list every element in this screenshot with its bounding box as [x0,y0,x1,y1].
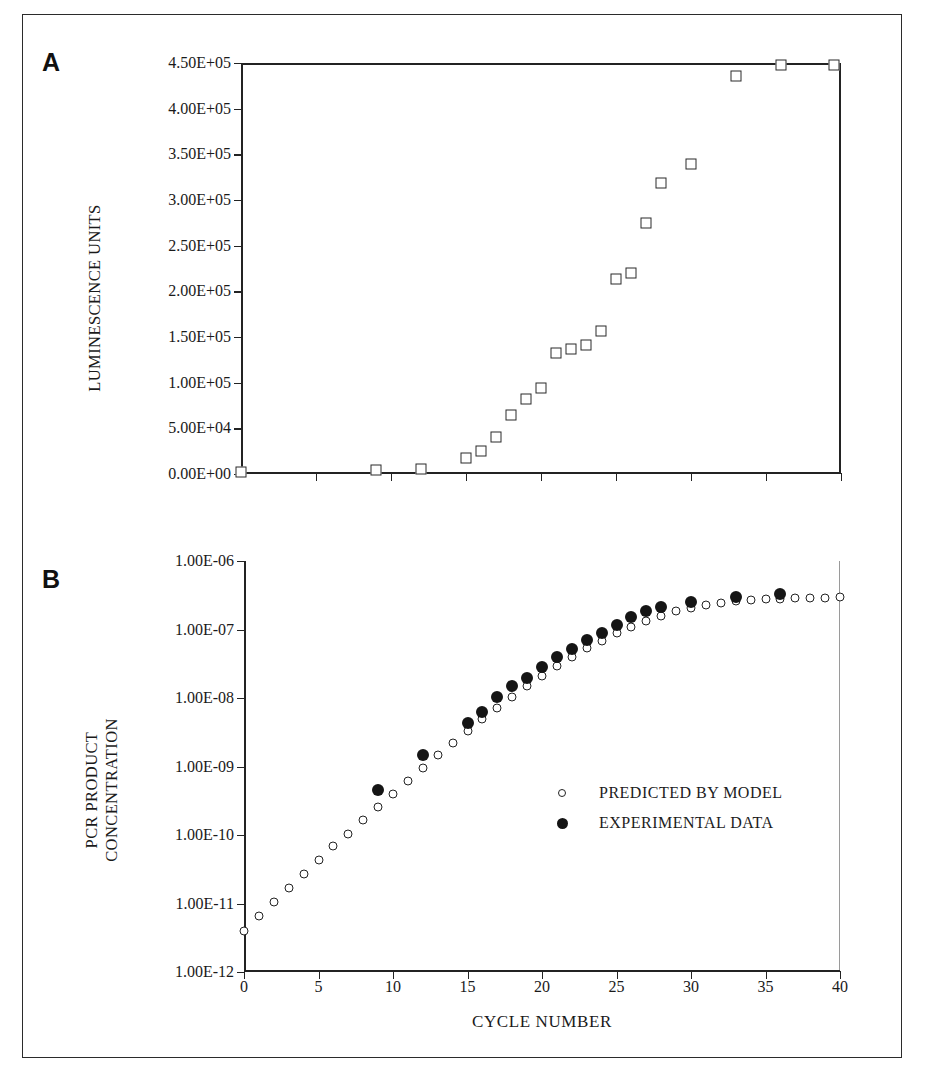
panel-a-point-11 [581,340,592,351]
panel-a-ytick-6-mark [234,200,242,201]
panel-b-ytick-4-label: 1.00E-08 [175,689,234,707]
panel-a-point-0 [236,467,247,478]
panel-a-ytick-5-label: 2.50E+05 [168,237,231,255]
panel-a-point-19 [776,59,787,70]
panel-a-point-18 [731,70,742,81]
legend-label-experimental: EXPERIMENTAL DATA [599,814,774,832]
panel-b-y-axis-title-line2: CONCENTRATION [102,660,122,920]
panel-b-predicted-point-17 [493,703,502,712]
panel-b-ytick-6-label: 1.00E-06 [175,552,234,570]
panel-b-predicted-point-3 [284,883,293,892]
panel-a-y-axis [241,63,243,474]
panel-b-predicted-point-12 [418,764,427,773]
panel-a-ytick-7-mark [234,154,242,155]
panel-b-xtick-4-label: 20 [534,978,550,996]
panel-a-ytick-9-mark [234,63,242,64]
panel-a-ytick-8-mark [234,109,242,110]
panel-b-xtick-1-label: 5 [315,978,323,996]
panel-a-xtick-8-mark [841,473,842,481]
panel-b-predicted-point-40 [836,593,845,602]
panel-b-ytick-2-label: 1.00E-10 [175,826,234,844]
panel-a-ytick-0-label: 0.00E+00 [168,465,231,483]
panel-a-xtick-7-mark [766,473,767,481]
panel-b-predicted-point-1 [254,912,263,921]
panel-a-xtick-1-mark [316,473,317,481]
panel-b-experimental-point-10 [581,634,593,646]
panel-a-xtick-2-mark [391,473,392,481]
panel-b-ytick-3-label: 1.00E-09 [175,758,234,776]
panel-b-predicted-point-38 [806,593,815,602]
panel-b-experimental-point-8 [551,651,563,663]
panel-b-predicted-point-29 [672,607,681,616]
panel-b-predicted-point-10 [389,789,398,798]
panel-a-xtick-6-mark [691,473,692,481]
panel-a-point-15 [641,217,652,228]
panel-a-ytick-5-mark [234,246,242,247]
panel-a-ytick-1-label: 5.00E+04 [168,419,231,437]
panel-b-predicted-point-2 [269,898,278,907]
figure-root: A B LUMINESCENCE UNITS PCR PRODUCT CONCE… [0,0,927,1077]
panel-a-point-6 [506,409,517,420]
panel-b-ytick-1-mark [237,904,245,905]
panel-b-experimental-point-0 [372,784,384,796]
panel-a-point-13 [611,274,622,285]
panel-a-ytick-4-label: 2.00E+05 [168,282,231,300]
panel-b-experimental-point-15 [655,601,667,613]
panel-a-plot-area: 0.00E+005.00E+041.00E+051.50E+052.00E+05… [241,63,841,474]
panel-a-frame-right [839,63,841,474]
panel-b-experimental-point-7 [536,661,548,673]
panel-b-predicted-point-0 [240,926,249,935]
panel-b-predicted-point-18 [508,692,517,701]
panel-b-xtick-0-label: 0 [240,978,248,996]
panel-a-point-3 [461,452,472,463]
panel-b-predicted-point-13 [433,751,442,760]
filled-circle-icon [545,818,579,829]
panel-a-xtick-5-mark [616,473,617,481]
panel-a-frame-top [241,63,841,65]
panel-b-y-axis-title-line1: PCR PRODUCT [82,660,102,920]
panel-label-a: A [42,48,60,77]
panel-a-point-7 [521,394,532,405]
panel-b-experimental-point-11 [596,627,608,639]
panel-b-xtick-3-label: 15 [460,978,476,996]
panel-b-predicted-point-8 [359,816,368,825]
panel-a-ytick-9-label: 4.50E+05 [168,54,231,72]
panel-b-experimental-point-18 [774,588,786,600]
panel-b-predicted-point-39 [821,593,830,602]
panel-b-experimental-point-3 [476,706,488,718]
panel-b-xtick-5-label: 25 [609,978,625,996]
panel-b-experimental-point-6 [521,672,533,684]
legend-item-predicted: PREDICTED BY MODEL [545,778,783,808]
panel-b-ytick-3-mark [237,767,245,768]
panel-a-xtick-4-mark [541,473,542,481]
panel-b-experimental-point-16 [685,596,697,608]
panel-a-ytick-8-label: 4.00E+05 [168,100,231,118]
panel-b-xtick-8-label: 40 [832,978,848,996]
panel-b-ytick-5-label: 1.00E-07 [175,621,234,639]
panel-b-x-axis-title: CYCLE NUMBER [244,1012,840,1032]
panel-b-y-axis-title: PCR PRODUCT CONCENTRATION [82,660,122,920]
panel-a-xtick-3-mark [466,473,467,481]
panel-label-b: B [42,565,60,594]
panel-b-xtick-2-label: 10 [385,978,401,996]
panel-b-experimental-point-2 [462,717,474,729]
panel-b-predicted-point-35 [761,595,770,604]
panel-b-experimental-point-4 [491,691,503,703]
panel-a-ytick-1-mark [234,428,242,429]
panel-b-xtick-6-label: 30 [683,978,699,996]
panel-b-frame-right [839,561,840,972]
panel-a-ytick-2-label: 1.00E+05 [168,374,231,392]
panel-b-predicted-point-7 [344,829,353,838]
panel-a-ytick-2-mark [234,383,242,384]
panel-b-experimental-point-13 [625,611,637,623]
panel-a-ytick-7-label: 3.50E+05 [168,145,231,163]
panel-b-experimental-point-12 [611,619,623,631]
panel-b-predicted-point-4 [299,869,308,878]
open-circle-icon [545,789,579,797]
panel-b-legend: PREDICTED BY MODEL EXPERIMENTAL DATA [545,778,783,838]
panel-a-point-8 [536,383,547,394]
panel-b-xtick-7-label: 35 [758,978,774,996]
panel-a-point-2 [416,463,427,474]
legend-item-experimental: EXPERIMENTAL DATA [545,808,783,838]
panel-b-predicted-point-31 [701,600,710,609]
